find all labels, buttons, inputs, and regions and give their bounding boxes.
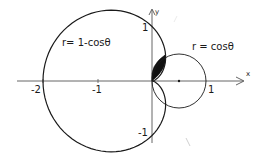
y-axis-label: y [155,8,159,16]
pencil-mark [186,138,190,146]
pencil-mark [174,16,177,22]
circle-center-dot [178,80,180,82]
tick-label-x-neg2: -2 [31,84,41,95]
tick-label-x-neg1: -1 [92,84,102,95]
polar-curves-diagram: x y -2 -1 1 1 -1 r= 1-cosθ r = cosθ [0,0,259,156]
tick-label-y-neg1: -1 [138,127,148,138]
circle-equation-label: r = cosθ [192,41,234,52]
x-axis-label: x [246,70,250,78]
cardioid-equation-label: r= 1-cosθ [62,37,111,48]
tick-label-x-pos1: 1 [208,84,214,95]
axes: x y -2 -1 1 1 -1 [17,8,250,143]
tick-label-y-pos1: 1 [142,22,148,33]
